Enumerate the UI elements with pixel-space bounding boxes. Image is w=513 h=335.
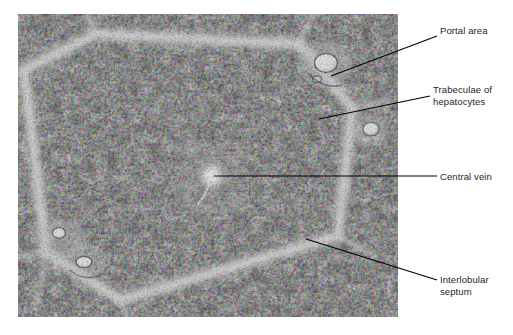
label-portal-area: Portal area: [440, 25, 488, 37]
label-trabeculae-of-hepatocytes: Trabeculae of hepatocytes: [433, 84, 492, 107]
label-interlobular-septum: Interlobular septum: [440, 274, 489, 297]
figure-liver-lobule-micrograph: Portal area Trabeculae of hepatocytes Ce…: [0, 0, 513, 335]
label-central-vein: Central vein: [440, 171, 492, 183]
micrograph-image: [18, 14, 398, 317]
